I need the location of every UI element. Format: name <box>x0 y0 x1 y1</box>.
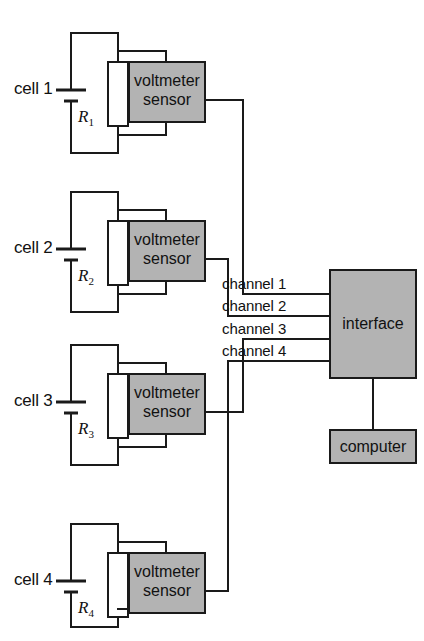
channel-4-label: channel 4 <box>222 343 286 358</box>
cell-3-label: cell 3 <box>14 392 53 409</box>
cell-1-label: cell 1 <box>14 80 53 97</box>
cell-3-sensor-line-1: voltmeter <box>129 384 205 403</box>
cell-4-sensor-top-tap <box>118 542 166 553</box>
cell-3-resistor-symbol: R <box>78 419 88 438</box>
cell-4-resistor <box>108 553 128 617</box>
cell-4-sensor-line-2: sensor <box>129 582 205 601</box>
cell-2-sensor-top-tap <box>118 210 166 221</box>
cell-2-resistor-label: R2 <box>78 267 94 287</box>
computer-label: computer <box>330 438 416 457</box>
cell-4-label: cell 4 <box>14 571 53 588</box>
cell-3-resistor-subscript: 3 <box>88 428 94 440</box>
cell-1-sensor-line-1: voltmeter <box>129 72 205 91</box>
channel-1-label: channel 1 <box>222 276 286 291</box>
cell-1-sensor-top-tap <box>118 51 166 62</box>
cell-4-output-wire-to-channel-4 <box>205 361 330 591</box>
cell-3-sensor-line-2: sensor <box>129 403 205 422</box>
cell-1-output-wire-to-channel-1 <box>205 100 330 294</box>
cell-4-resistor-subscript: 4 <box>88 607 94 619</box>
cell-4-sensor-label: voltmeter sensor <box>129 563 205 601</box>
cell-2-resistor-symbol: R <box>78 266 88 285</box>
cell-2-resistor <box>108 221 128 285</box>
cell-1-resistor-subscript: 1 <box>88 116 94 128</box>
cell-4-resistor-label: R4 <box>78 599 94 619</box>
cell-4-sensor-line-1: voltmeter <box>129 563 205 582</box>
channel-3-label: channel 3 <box>222 321 286 336</box>
cell-1-sensor-label: voltmeter sensor <box>129 72 205 110</box>
cell-4-resistor-symbol: R <box>78 598 88 617</box>
cell-1-sensor-line-2: sensor <box>129 91 205 110</box>
cell-3-resistor-label: R3 <box>78 420 94 440</box>
cell-3-sensor-top-tap <box>118 363 166 374</box>
cell-1-resistor-label: R1 <box>78 108 94 128</box>
cell-3-sensor-label: voltmeter sensor <box>129 384 205 422</box>
cell-1-resistor-symbol: R <box>78 107 88 126</box>
interface-label: interface <box>330 315 416 334</box>
cell-2-sensor-line-1: voltmeter <box>129 231 205 250</box>
cell-2-sensor-line-2: sensor <box>129 250 205 269</box>
cell-3-resistor <box>108 374 128 438</box>
cell-2-resistor-subscript: 2 <box>88 275 94 287</box>
diagram-canvas: cell 1 R1 cell 2 R2 cell 3 R3 cell 4 R4 … <box>0 0 424 641</box>
cell-1-resistor <box>108 62 128 126</box>
cell-2-sensor-label: voltmeter sensor <box>129 231 205 269</box>
cell-2-label: cell 2 <box>14 239 53 256</box>
channel-2-label: channel 2 <box>222 298 286 313</box>
